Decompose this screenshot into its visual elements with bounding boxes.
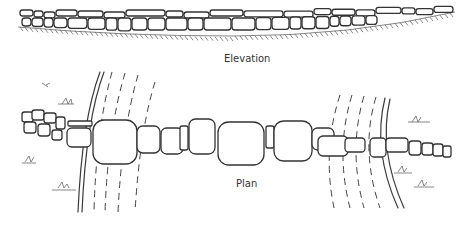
stone [256, 18, 271, 30]
stone [22, 18, 31, 26]
hatch-mark [380, 26, 383, 30]
stone [32, 110, 44, 120]
hatch-mark [175, 36, 178, 40]
stone [166, 11, 183, 17]
stone [44, 113, 56, 123]
stone [166, 18, 187, 30]
hatch-mark [235, 36, 238, 40]
hatch-mark [230, 37, 233, 41]
stone [106, 18, 117, 30]
hatch-mark [215, 37, 218, 41]
hatch-mark [195, 36, 198, 40]
hatch-mark [445, 14, 448, 18]
stone [409, 141, 421, 155]
hatch-mark [310, 33, 313, 37]
stone [316, 17, 329, 29]
stone [34, 11, 43, 17]
stone [52, 130, 62, 140]
stone [104, 12, 125, 18]
stone [148, 18, 165, 30]
hatch-mark [315, 33, 318, 37]
stone [345, 138, 365, 152]
hatch-mark [245, 36, 248, 40]
stone [88, 18, 105, 29]
stone [244, 11, 283, 17]
stone [352, 16, 365, 25]
illustration [0, 0, 468, 225]
hatch-mark [260, 36, 263, 40]
hatch-mark [250, 36, 253, 40]
stone [54, 18, 67, 28]
hatch-mark [410, 21, 413, 25]
stone [274, 121, 312, 161]
stone [332, 9, 355, 15]
hatch-mark [170, 36, 173, 40]
hatch-mark [390, 24, 393, 28]
hatch-mark [450, 13, 453, 17]
stone [416, 9, 433, 15]
stone [56, 10, 77, 16]
stone [218, 122, 264, 165]
stone [67, 128, 91, 147]
stone [330, 16, 339, 26]
stone [232, 18, 255, 30]
hatch-mark [280, 35, 283, 39]
stone [210, 10, 243, 16]
hatch-mark [255, 36, 258, 40]
hatch-mark [210, 37, 213, 41]
hatch-mark [350, 29, 353, 33]
hatch-mark [400, 22, 403, 26]
stone [402, 8, 415, 14]
stone [376, 7, 401, 13]
hatch-mark [165, 35, 168, 39]
stone [93, 120, 137, 164]
stone [44, 18, 53, 27]
stone [32, 18, 43, 27]
stone [290, 17, 301, 29]
stone [56, 117, 65, 129]
plan-drawing [22, 72, 451, 212]
stone [68, 121, 92, 126]
stone [38, 124, 50, 136]
hatch-mark [180, 36, 183, 40]
hatch-mark [295, 34, 298, 38]
hatch-mark [355, 29, 358, 33]
hatch-mark [345, 30, 348, 34]
hatch-mark [240, 36, 243, 40]
hatch-mark [335, 31, 338, 35]
hatch-mark [320, 32, 323, 36]
hatch-mark [135, 34, 138, 38]
stone [266, 126, 274, 148]
stone [126, 10, 165, 16]
hatch-mark [420, 19, 423, 23]
hatch-mark [270, 35, 273, 39]
elevation-drawing [18, 6, 455, 41]
hatch-mark [375, 26, 378, 30]
stone [132, 18, 147, 30]
stone [137, 126, 160, 153]
stone [314, 9, 331, 15]
stone [78, 11, 103, 17]
hatch-mark [185, 36, 188, 40]
hatch-mark [425, 18, 428, 22]
stone [434, 6, 453, 12]
hatch-mark [325, 32, 328, 36]
hatch-mark [430, 17, 433, 21]
hatch-mark [370, 27, 373, 31]
stone [318, 136, 348, 156]
hatch-mark [290, 34, 293, 38]
hatch-mark [395, 23, 398, 27]
stone [443, 146, 451, 157]
hatch-mark [220, 37, 223, 41]
stone [189, 119, 215, 154]
stone [356, 10, 375, 16]
hatch-mark [405, 22, 408, 26]
hatch-mark [440, 15, 443, 19]
hatch-mark [300, 34, 303, 38]
hatch-mark [435, 16, 438, 20]
hatch-mark [160, 35, 163, 39]
hatch-mark [145, 35, 148, 39]
stone [386, 138, 408, 152]
hatch-mark [190, 36, 193, 40]
stone [433, 144, 443, 156]
